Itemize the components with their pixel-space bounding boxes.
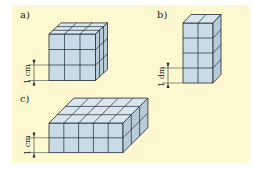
figure-a-front-face: [49, 34, 96, 81]
cube-diagrams: [0, 0, 253, 170]
